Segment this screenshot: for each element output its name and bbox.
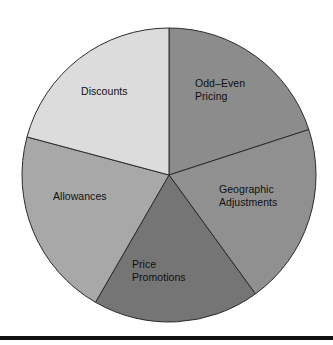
pie-slices-group bbox=[22, 28, 316, 322]
bottom-divider-rule bbox=[0, 336, 333, 340]
pie-chart-svg bbox=[0, 0, 333, 345]
pie-chart-figure: Odd–Even Pricing Geographic Adjustments … bbox=[0, 0, 333, 345]
